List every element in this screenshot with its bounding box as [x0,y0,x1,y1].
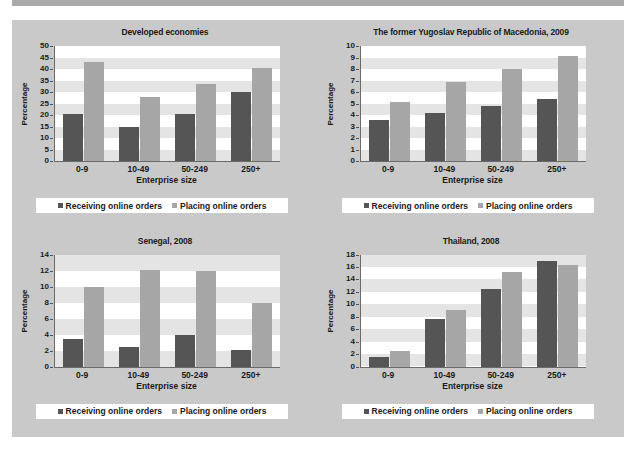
bar-receiving [175,114,195,161]
y-tick-label: 9 [351,54,355,62]
bar-group [224,68,280,161]
x-tick-label: 0-9 [360,164,416,174]
bar-group [530,56,586,161]
bar-group [361,102,417,161]
legend-swatch-icon [364,203,369,208]
bar-placing [558,265,578,366]
y-tick-label: 7 [351,77,355,85]
bar-placing [196,271,216,367]
y-axis-ticks: 012345678910 [336,46,358,161]
bar-placing [558,56,578,161]
chart-legend: Receiving online ordersPlacing online or… [342,198,594,213]
y-tick-label: 35 [40,77,49,85]
bar-receiving [425,319,445,366]
bar-group [474,69,530,161]
legend-item-receiving[interactable]: Receiving online orders [364,201,468,211]
legend-item-placing[interactable]: Placing online orders [172,201,266,211]
bar-series-container [55,255,280,367]
y-tick-label: 30 [40,88,49,96]
chart-panel-senegal: Senegal, 2008 Percentage024681012140-910… [12,229,318,438]
chart-grid: Developed economies Percentage0510152025… [12,20,624,437]
bar-placing [84,287,104,367]
y-tick-label: 10 [40,283,49,291]
legend-swatch-icon [478,203,483,208]
bar-placing [446,82,466,161]
chart-title: Developed economies [12,27,318,37]
bar-receiving [119,127,139,162]
legend-item-receiving[interactable]: Receiving online orders [364,406,468,416]
bar-receiving [481,289,501,367]
y-tick-label: 1 [351,146,355,154]
x-tick-label: 10-49 [110,164,166,174]
y-axis-label: Percentage [326,82,335,125]
bar-group [530,261,586,366]
x-tick-label: 10-49 [416,164,472,174]
legend-swatch-icon [172,409,177,414]
y-tick-label: 8 [351,313,355,321]
legend-swatch-icon [364,409,369,414]
bar-group [474,272,530,367]
chart-legend: Receiving online ordersPlacing online or… [342,404,594,419]
bar-series-container [361,255,586,367]
legend-item-receiving[interactable]: Receiving online orders [58,201,162,211]
plot-canvas [360,255,586,368]
bar-placing [502,272,522,367]
y-tick-label: 10 [346,300,355,308]
x-axis-label: Enterprise size [360,381,585,391]
y-tick-label: 18 [346,251,355,259]
legend-label: Receiving online orders [66,406,162,416]
x-axis-ticks: 0-910-4950-249250+ [54,370,279,380]
chart-title: Senegal, 2008 [12,236,318,246]
bar-receiving [537,261,557,366]
y-tick-label: 4 [351,111,355,119]
bar-placing [390,102,410,161]
y-axis-label: Percentage [20,289,29,332]
legend-swatch-icon [58,409,63,414]
y-tick-label: 45 [40,54,49,62]
bar-group [168,271,224,367]
legend-label: Receiving online orders [66,201,162,211]
legend-item-placing[interactable]: Placing online orders [478,201,572,211]
chart-legend: Receiving online ordersPlacing online or… [36,404,288,419]
x-tick-label: 0-9 [54,370,110,380]
y-tick-label: 2 [45,347,49,355]
bar-group [168,84,224,161]
y-tick-label: 14 [346,275,355,283]
chart-title: Thailand, 2008 [318,236,624,246]
x-tick-label: 250+ [529,370,585,380]
y-tick-label: 15 [40,123,49,131]
x-tick-label: 50-249 [167,370,223,380]
chart-panel-thailand: Thailand, 2008 Percentage024681012141618… [318,229,624,438]
y-tick-label: 0 [45,363,49,371]
y-tick-label: 20 [40,111,49,119]
x-tick-label: 50-249 [473,370,529,380]
y-tick-label: 6 [351,88,355,96]
y-tick-label: 16 [346,263,355,271]
bar-receiving [481,106,501,161]
legend-item-receiving[interactable]: Receiving online orders [58,406,162,416]
bar-group [361,351,417,367]
x-tick-label: 50-249 [473,164,529,174]
figure-caption-banner: Figure II.20. Enterprises using the inte… [12,0,624,6]
y-tick-label: 8 [45,299,49,307]
y-axis-ticks: 024681012141618 [336,255,358,367]
x-axis-label: Enterprise size [360,175,585,185]
legend-item-placing[interactable]: Placing online orders [172,406,266,416]
bar-receiving [369,357,389,367]
bar-group [417,82,473,161]
legend-label: Receiving online orders [372,201,468,211]
plot-canvas [54,255,280,368]
x-tick-label: 50-249 [167,164,223,174]
bar-receiving [63,114,83,161]
x-tick-label: 250+ [529,164,585,174]
y-tick-label: 6 [351,325,355,333]
legend-item-placing[interactable]: Placing online orders [478,406,572,416]
x-axis-ticks: 0-910-4950-249250+ [54,164,279,174]
x-axis-label: Enterprise size [54,381,279,391]
bar-placing [140,97,160,161]
bar-placing [84,62,104,161]
bar-receiving [425,113,445,161]
bar-receiving [175,335,195,366]
bar-receiving [231,92,251,161]
bar-group [111,97,167,161]
